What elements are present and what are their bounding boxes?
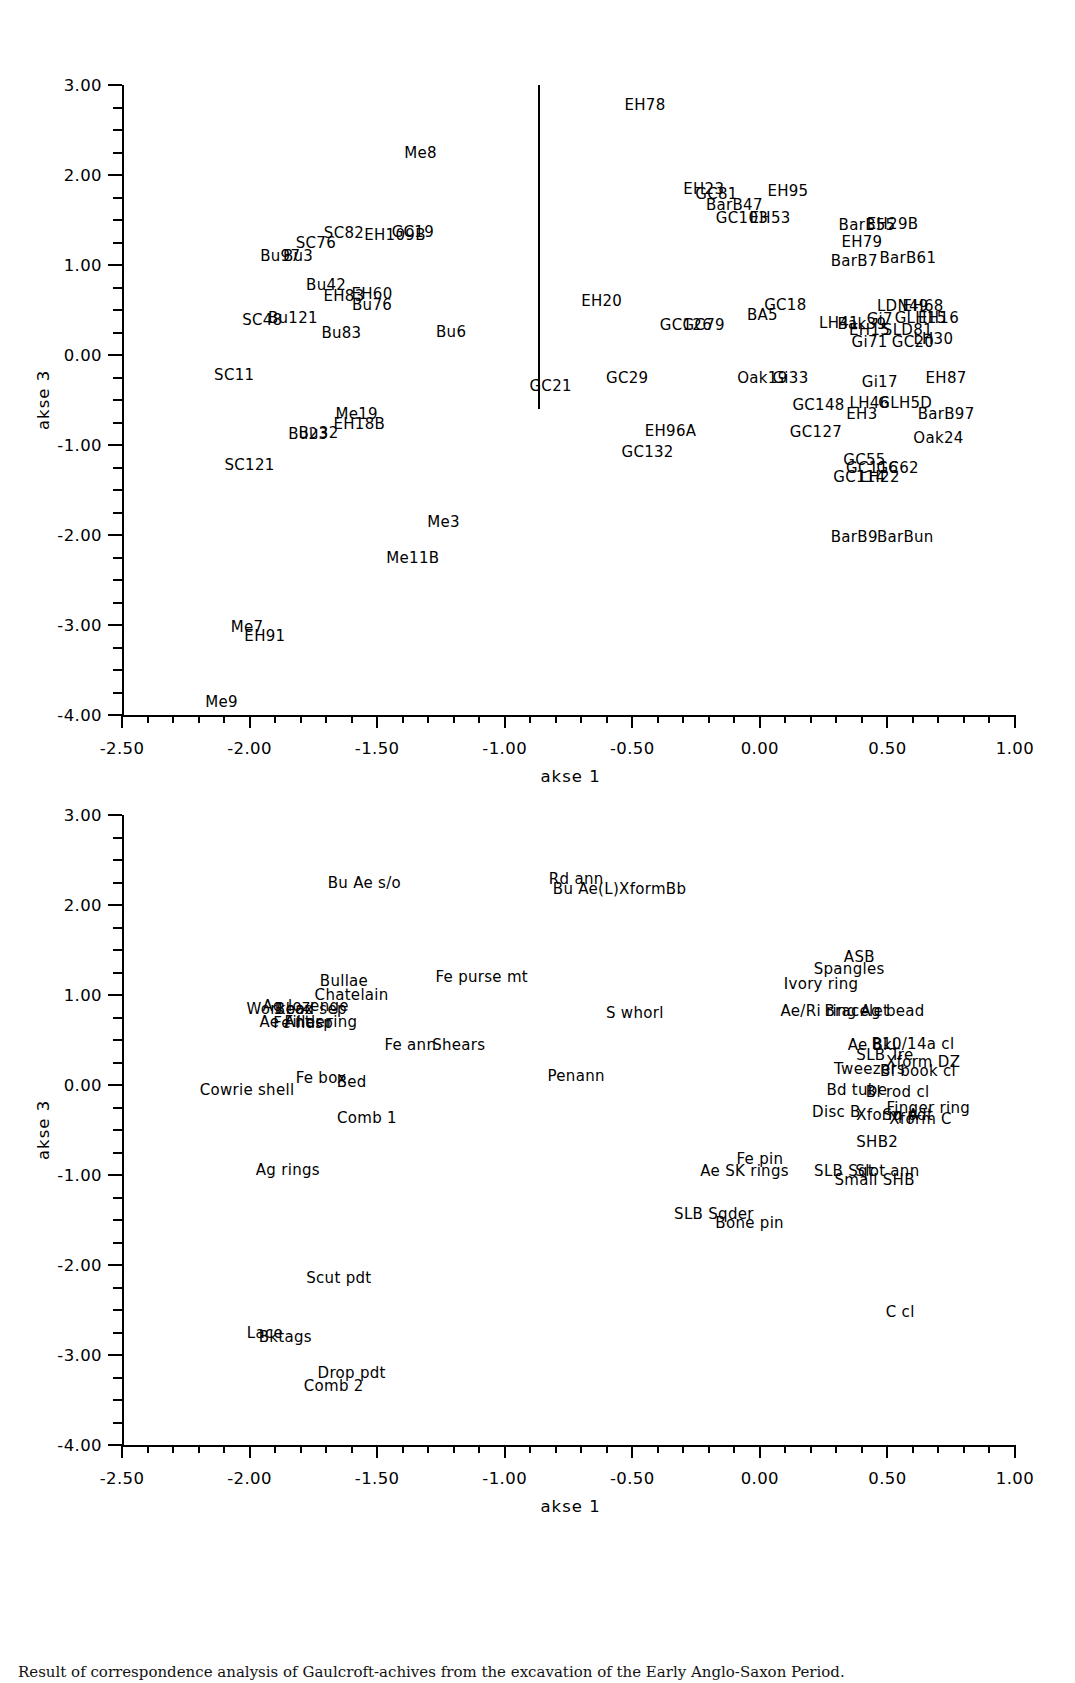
x-axis-minor-tick [427, 715, 429, 723]
scatter-point-label: GC19 [392, 224, 434, 239]
scatter-point-label: Comb 1 [337, 1111, 397, 1126]
y-axis-tick-label: 1.00 [64, 986, 102, 1005]
x-axis-minor-tick [682, 1445, 684, 1453]
scatter-point-label: EH20 [581, 294, 622, 309]
x-axis-minor-tick [478, 715, 480, 723]
x-axis-minor-tick [861, 715, 863, 723]
scatter-point-label: Fe ann [384, 1038, 436, 1053]
x-axis-title: akse 1 [541, 1497, 601, 1516]
scatter-point-label: EH87 [926, 370, 967, 385]
y-axis-minor-tick [113, 467, 122, 469]
y-axis-minor-tick [113, 949, 122, 951]
y-axis-tick-label: -3.00 [57, 1346, 102, 1365]
y-axis-minor-tick [113, 1287, 122, 1289]
scatter-point-label: GC132 [621, 445, 673, 460]
y-axis-tick-label: 0.00 [64, 1076, 102, 1095]
x-axis-minor-tick [912, 715, 914, 723]
y-axis-tick-label: -4.00 [57, 706, 102, 725]
scatter-point-label: EH3 [846, 406, 877, 421]
x-axis-major-tick [249, 715, 251, 728]
y-axis-minor-tick [113, 399, 122, 401]
y-axis-major-tick [108, 1084, 122, 1086]
y-axis-minor-tick [113, 1242, 122, 1244]
scatter-point-label: Bu76 [352, 297, 392, 312]
y-axis-line [122, 815, 124, 1445]
x-axis-major-tick [759, 715, 761, 728]
y-axis-minor-tick [113, 1017, 122, 1019]
plot-area: -4.00-3.00-2.00-1.000.001.002.003.00-2.5… [0, 0, 1075, 800]
scatter-point-label: GC29 [606, 371, 648, 386]
x-axis-minor-tick [529, 715, 531, 723]
y-axis-minor-tick [113, 1219, 122, 1221]
x-axis-minor-tick [351, 715, 353, 723]
scatter-point-label: Xform C [889, 1112, 952, 1127]
x-axis-tick-label: 1.00 [996, 739, 1034, 758]
x-axis-tick-label: 0.50 [868, 1469, 906, 1488]
scatter-point-label: Bu32 [298, 426, 338, 441]
scatter-point-label: Bu121 [268, 311, 318, 326]
x-axis-tick-label: -1.00 [482, 739, 527, 758]
x-axis-minor-tick [555, 715, 557, 723]
x-axis-minor-tick [988, 1445, 990, 1453]
y-axis-minor-tick [113, 422, 122, 424]
figure-root: -4.00-3.00-2.00-1.000.001.002.003.00-2.5… [0, 0, 1075, 1683]
scatter-point-label: Disc B [812, 1105, 861, 1120]
x-axis-tick-label: 1.00 [996, 1469, 1034, 1488]
y-axis-major-tick [108, 264, 122, 266]
x-axis-minor-tick [453, 715, 455, 723]
x-axis-minor-tick [300, 715, 302, 723]
x-axis-major-tick [631, 1445, 633, 1458]
scatter-point-label: GC21 [529, 378, 571, 393]
x-axis-minor-tick [606, 1445, 608, 1453]
y-axis-minor-tick [113, 197, 122, 199]
y-axis-major-tick [108, 84, 122, 86]
scatter-point-label: EH53 [750, 211, 791, 226]
x-axis-minor-tick [988, 715, 990, 723]
x-axis-major-tick [504, 715, 506, 728]
x-axis-major-tick [1014, 1445, 1016, 1458]
y-axis-minor-tick [113, 309, 122, 311]
x-axis-minor-tick [172, 1445, 174, 1453]
x-axis-major-tick [504, 1445, 506, 1458]
scatter-point-label: Oak24 [913, 430, 963, 445]
scatter-point-label: Bone pin [715, 1215, 784, 1230]
x-axis-minor-tick [427, 1445, 429, 1453]
scatter-point-label: EH78 [625, 97, 666, 112]
scatter-point-label: Bl book cl [880, 1063, 956, 1078]
scatter-point-label: GC79 [683, 318, 725, 333]
x-axis-major-tick [249, 1445, 251, 1458]
x-axis-tick-label: 0.00 [741, 739, 779, 758]
y-axis-minor-tick [113, 837, 122, 839]
scatter-point-label: BarB61 [879, 250, 936, 265]
x-axis-minor-tick [861, 1445, 863, 1453]
scatter-point-label: SC121 [224, 457, 274, 472]
x-axis-minor-tick [835, 1445, 837, 1453]
scatter-point-label: LH30 [913, 331, 953, 346]
y-axis-minor-tick [113, 669, 122, 671]
y-axis-minor-tick [113, 1309, 122, 1311]
scatter-point-label: SHB2 [856, 1134, 898, 1149]
x-axis-minor-tick [682, 715, 684, 723]
y-axis-tick-label: -4.00 [57, 1436, 102, 1455]
x-axis-minor-tick [274, 1445, 276, 1453]
x-axis-minor-tick [351, 1445, 353, 1453]
scatter-point-label: EH96A [645, 423, 697, 438]
y-axis-minor-tick [113, 219, 122, 221]
scatter-point-label: Fe purse mt [435, 970, 528, 985]
scatter-point-label: EH29B [867, 216, 919, 231]
scatter-point-label: Bu Ae s/o [328, 876, 401, 891]
scatter-point-label: Bl rod cl [866, 1085, 930, 1100]
y-axis-major-tick [108, 994, 122, 996]
x-axis-minor-tick [274, 715, 276, 723]
y-axis-minor-tick [113, 332, 122, 334]
x-axis-line [122, 1445, 1015, 1447]
x-axis-minor-tick [733, 715, 735, 723]
y-axis-major-tick [108, 354, 122, 356]
x-axis-title: akse 1 [541, 767, 601, 786]
x-axis-minor-tick [223, 715, 225, 723]
scatter-point-label: Bu3 [283, 249, 313, 264]
y-axis-minor-tick [113, 579, 122, 581]
y-axis-major-tick [108, 814, 122, 816]
x-axis-minor-tick [963, 1445, 965, 1453]
scatter-point-label: Bed [337, 1075, 367, 1090]
